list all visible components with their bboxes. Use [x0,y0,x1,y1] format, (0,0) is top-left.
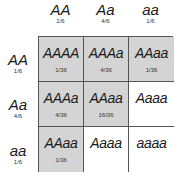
row-frequency: 4/6 [0,112,36,120]
row-genotype: aa [0,143,36,158]
cell-frequency: 4/36 [39,111,83,119]
cell-frequency: 1/36 [39,66,83,74]
cell-genotype: Aaaa [84,136,128,150]
grid-cell: AAAA 1/36 [39,37,84,82]
row-header-aa: aa 1/6 [0,143,36,166]
row-frequency: 1/6 [0,158,36,166]
column-genotype: Aa [83,2,128,17]
column-frequency: 1/6 [128,17,173,25]
column-genotype: aa [128,2,173,17]
column-header-aa: aa 1/6 [128,2,173,25]
grid-cell: AAaa 1/36 [39,127,84,172]
grid-cell: AAaa 16/36 [84,82,129,127]
cell-genotype: Aaaa [129,91,174,105]
row-header-Aa: Aa 4/6 [0,97,36,120]
row-frequency: 1/6 [0,67,36,75]
row-header-AA: AA 1/6 [0,52,36,75]
grid-cell: Aaaa [129,82,174,127]
cell-genotype: AAAA [39,46,83,60]
cell-genotype: aaaa [129,136,174,150]
grid-cell: AAAa 4/36 [39,82,84,127]
cell-genotype: AAAa [84,46,128,60]
cell-frequency: 1/36 [129,66,174,74]
grid-cell: Aaaa [84,127,129,172]
column-header-AA: AA 1/6 [38,2,83,25]
cell-genotype: AAaa [129,46,174,60]
row-genotype: AA [0,52,36,67]
grid-cell: aaaa [129,127,174,172]
cell-frequency: 4/36 [84,66,128,74]
column-genotype: AA [38,2,83,17]
cell-frequency: 16/36 [84,111,128,119]
column-header-Aa: Aa 4/6 [83,2,128,25]
column-frequency: 1/6 [38,17,83,25]
cell-genotype: AAaa [39,136,83,150]
row-genotype: Aa [0,97,36,112]
cell-genotype: AAAa [39,91,83,105]
cell-genotype: AAaa [84,91,128,105]
cell-frequency: 1/36 [39,156,83,164]
punnett-square: AAAA 1/36 AAAa 4/36 AAaa 1/36 AAAa 4/36 … [38,36,173,172]
grid-cell: AAAa 4/36 [84,37,129,82]
grid-cell: AAaa 1/36 [129,37,174,82]
column-frequency: 4/6 [83,17,128,25]
